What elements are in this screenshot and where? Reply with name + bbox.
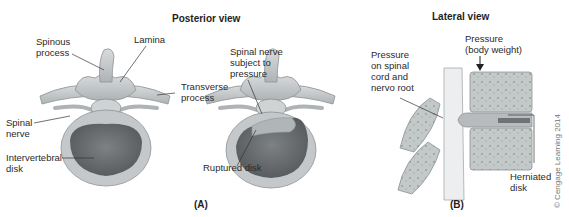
posterior-view-title: Posterior view	[172, 13, 240, 24]
label-spinal-nerve: Spinal nerve	[6, 117, 32, 139]
panel-tag-a: (A)	[194, 199, 208, 210]
label-ruptured-disk: Ruptured disk	[203, 162, 262, 173]
label-intervertebral-disk: Intervertebral disk	[6, 152, 62, 174]
label-herniated-disk: Herniated disk	[510, 171, 551, 193]
label-pressure-spinal-cord: Pressure on spinal cord and nervo root	[371, 49, 414, 93]
panel-tag-b: (B)	[450, 199, 464, 210]
label-transverse-process: Transverse process	[181, 81, 228, 103]
lateral-view-title: Lateral view	[432, 11, 489, 22]
label-lamina: Lamina	[134, 34, 165, 45]
label-spinal-nerve-pressure: Spinal nerve subject to pressure	[230, 46, 283, 79]
label-pressure-body-weight: Pressure (body weight)	[465, 33, 522, 55]
copyright-notice: © Cengage Learning 2014	[553, 114, 562, 208]
label-spinous-process: Spinous process	[36, 36, 70, 58]
